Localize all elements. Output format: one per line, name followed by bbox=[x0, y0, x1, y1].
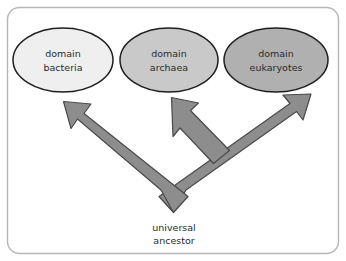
node-bacteria-label-line2: bacteria bbox=[43, 62, 82, 73]
domain-nodes: domain bacteria domain archaea domain eu… bbox=[13, 28, 328, 92]
universal-ancestor-label-line2: ancestor bbox=[153, 235, 194, 246]
node-eukaryotes-shape bbox=[224, 28, 328, 92]
node-archaea-label-line1: domain bbox=[151, 48, 187, 59]
node-archaea-label-line2: archaea bbox=[150, 62, 188, 73]
node-eukaryotes[interactable]: domain eukaryotes bbox=[224, 28, 328, 92]
universal-ancestor-label-line1: universal bbox=[152, 222, 195, 233]
node-eukaryotes-label-line1: domain bbox=[258, 48, 294, 59]
node-archaea-shape bbox=[120, 28, 218, 92]
diagram-canvas: domain bacteria domain archaea domain eu… bbox=[0, 0, 346, 261]
node-eukaryotes-label-line2: eukaryotes bbox=[250, 62, 303, 73]
node-bacteria-label-line1: domain bbox=[45, 48, 81, 59]
node-bacteria-shape bbox=[13, 28, 113, 92]
node-bacteria[interactable]: domain bacteria bbox=[13, 28, 113, 92]
tree-of-life-diagram: domain bacteria domain archaea domain eu… bbox=[0, 0, 346, 261]
node-archaea[interactable]: domain archaea bbox=[120, 28, 218, 92]
